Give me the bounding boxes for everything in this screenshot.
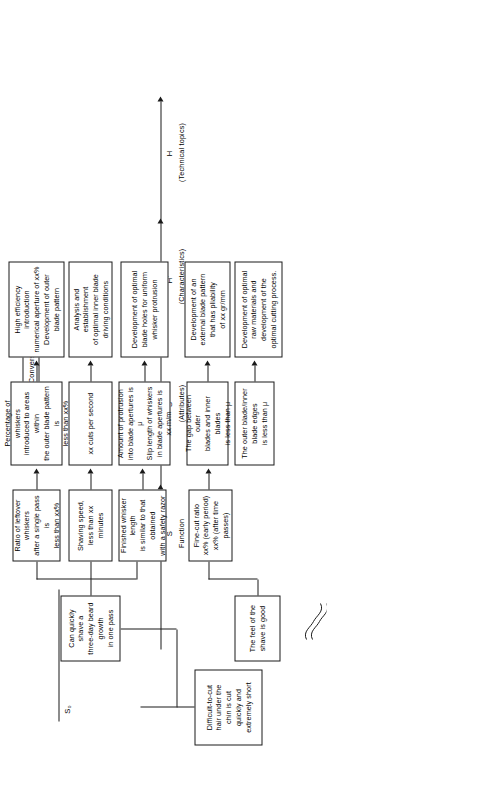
node-h-3-line-1: external blade pattern [197, 273, 207, 345]
connector-s0-to-sprime-b0 [36, 561, 37, 579]
axis-line-s0 [58, 589, 59, 721]
node-s-0-line-1: three-day beard growth [85, 599, 104, 657]
node-sprime-1-line-1: less than xx minutes [85, 493, 104, 557]
arrow-hprime-1-to-h [87, 360, 93, 365]
arrow-sprime-3-to-hprime [205, 468, 211, 473]
connector-hprime-4-to-h [254, 365, 255, 381]
node-hprime-2-line-0: Amount of protrusion [115, 385, 125, 461]
node-h-2-line-1: blade holes for uniform [139, 270, 149, 348]
arrow-hprime-2-to-h [141, 360, 147, 365]
node-hprime-4-line-2: is less than μ [259, 388, 269, 458]
arrow-hprime-3-to-h [204, 360, 210, 365]
connector-s0-branch-a [120, 628, 176, 629]
node-sprime-2-line-0: Finished whisker length [118, 493, 137, 557]
node-sprime-3-line-1: xx% (early period) [200, 493, 210, 557]
node-hprime-0-line-0: Percentage of whiskers [2, 385, 21, 461]
node-h-3: Development of an external blade pattern… [184, 261, 230, 357]
node-h-0: High efficiency introduction numerical a… [8, 261, 64, 357]
node-hprime-0: Percentage of whiskers introduced to are… [10, 381, 62, 465]
connector-hprime-0-to-h [36, 365, 37, 381]
arrow-sprime-1-to-hprime [87, 468, 93, 473]
node-s-0: Can quickly shave a three-day beard grow… [60, 595, 120, 661]
stage-label-s-name: Function [176, 503, 185, 563]
node-sprime-0-line-0: Ratio of leftover whiskers [12, 493, 31, 557]
node-hprime-0-line-2: the outer blade pattern is [41, 385, 60, 461]
node-s0-line-3: quickly and [233, 682, 243, 733]
connector-s1-to-sprime-bus [208, 578, 257, 579]
node-hprime-2-line-3: in blade apertures is xx m/m [154, 385, 173, 461]
connector-sprime-1-to-hprime [90, 473, 91, 489]
node-h-2-line-0: Development of optimal [129, 270, 139, 348]
node-h-0-line-2: Development of outer [41, 265, 51, 353]
node-h-4-line-3: optimal cutting process. [268, 270, 278, 348]
node-hprime-4-line-1: blade edges [249, 388, 259, 458]
node-hprime-1-line-0: xx cuts per second [85, 392, 95, 454]
node-s0-line-4: extremely short [243, 682, 253, 733]
node-hprime-4: The outer blade/inner blade edges is les… [234, 381, 274, 465]
diagram-canvas: Wet Shaver S-H Conversion S₀ S Function … [0, 0, 478, 789]
arrow-hprime-4-to-h [251, 360, 257, 365]
arrow-sprime-2-to-hprime [139, 468, 145, 473]
connector-s0-to-sprime-b2 [136, 561, 137, 579]
node-hprime-3: The gap between outer blades and inner b… [186, 381, 228, 465]
node-sprime-2-line-1: is similar to that obtained [137, 493, 156, 557]
connector-sprime-0-to-hprime [36, 473, 37, 489]
node-hprime-0-line-1: introduced to areas within [21, 385, 40, 461]
node-h-1-line-1: of optimal inner blade [90, 265, 100, 353]
node-hprime-2: Amount of protrusion into blade aperture… [118, 381, 170, 465]
connector-hprime-3-to-h [207, 365, 208, 381]
node-h-3-line-2: that has pliability [207, 273, 217, 345]
stage-label-h-name: (Technical topics) [176, 115, 185, 189]
node-hprime-1: xx cuts per second [68, 381, 112, 465]
node-s-0-line-2: in one pass [105, 599, 115, 657]
node-sprime-0-line-1: after a single pass is [31, 493, 50, 557]
node-hprime-3-line-1: blades and inner blades [202, 385, 221, 461]
connector-hprime-1-to-h [90, 365, 91, 381]
node-h-3-line-3: of xx gr/mm [217, 273, 227, 345]
connector-s1-to-sprime-stub [257, 579, 258, 595]
connector-s0-stub-up [176, 706, 194, 707]
node-h-2-line-2: whisker protrusion [149, 270, 159, 348]
break-squiggle [300, 601, 326, 641]
node-h-4-line-0: Development of optimal [239, 270, 249, 348]
connector-s0-branch-b [140, 706, 176, 707]
node-h-2: Development of optimal blade holes for u… [120, 261, 168, 357]
arrow-sprime-0-to-hprime [33, 468, 39, 473]
node-s-1-line-1: shave is good [257, 604, 267, 651]
connector-sprime-3-to-hprime [208, 473, 209, 489]
node-s0-line-1: hair under the [213, 682, 223, 733]
node-h-0-line-3: blade pattern [51, 265, 61, 353]
connector-s0-to-sprime-stub [90, 579, 91, 595]
node-sprime-2: Finished whisker length is similar to th… [118, 489, 166, 561]
node-hprime-3-line-2: is less than μ [222, 385, 232, 461]
node-hprime-3-line-0: The gap between outer [183, 385, 202, 461]
node-s0-line-2: chin is cut [223, 682, 233, 733]
connector-hprime-2-to-h [144, 365, 145, 381]
node-s-1: The feel of the shave is good [234, 595, 280, 661]
node-h-1-line-2: driving conditions [100, 265, 110, 353]
node-sprime-3-line-0: Fine-cut ratio [191, 493, 201, 557]
node-h-1-line-0: Analysis and establishment [71, 265, 90, 353]
node-s-1-line-0: The feel of the [247, 604, 257, 651]
node-sprime-3: Fine-cut ratio xx% (early period) xx% (a… [188, 489, 232, 561]
node-s0: Difficult-to-cut hair under the chin is … [194, 669, 262, 745]
node-hprime-2-line-1: into blade apertures is μ [125, 385, 144, 461]
node-h-0-line-0: High efficiency introduction [12, 265, 31, 353]
node-sprime-2-line-2: with a safety razor [157, 493, 167, 557]
node-h-4-line-1: raw materials and [248, 270, 258, 348]
node-s-0-line-0: Can quickly shave a [66, 599, 85, 657]
stage-label-h-symbol: H [164, 143, 173, 163]
connector-sprime-2-to-hprime [142, 473, 143, 489]
node-hprime-2-line-2: Slip length of whiskers [144, 385, 154, 461]
node-hprime-4-line-0: The outer blade/inner [239, 388, 249, 458]
node-s0-line-0: Difficult-to-cut [204, 682, 214, 733]
node-sprime-0-line-2: less than xx% [51, 493, 61, 557]
connector-s0-to-sprime-bus [36, 578, 136, 579]
axis-arrow-h [157, 96, 163, 101]
connector-s0-bus [176, 629, 177, 707]
connector-s1-to-sprime-b0 [208, 561, 209, 579]
node-sprime-1-line-0: Shaving speed, [75, 493, 85, 557]
connector-s0-to-sprime-b1 [90, 561, 91, 579]
rotated-page-wrapper: Wet Shaver S-H Conversion S₀ S Function … [0, 0, 478, 789]
node-sprime-1: Shaving speed, less than xx minutes [68, 489, 112, 561]
